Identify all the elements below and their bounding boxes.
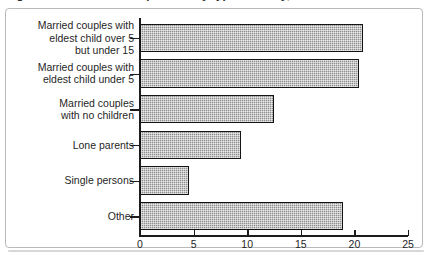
category-label: Married couples with no children xyxy=(6,97,134,122)
bar xyxy=(140,131,241,160)
x-axis-tick-label: 0 xyxy=(137,238,143,250)
x-axis-tick-label: 20 xyxy=(349,238,361,250)
y-axis-tick xyxy=(130,181,139,183)
bar xyxy=(140,24,363,53)
bar xyxy=(140,166,189,195)
y-axis-tick xyxy=(130,109,139,111)
category-label: Lone parents xyxy=(6,139,134,152)
frame-drop-shadow xyxy=(8,250,424,252)
bar-chart-plot-area: Married couples with eldest child over 5… xyxy=(6,9,424,249)
bar xyxy=(140,59,359,88)
x-axis-tick-label: 25 xyxy=(402,238,414,250)
x-axis-tick-label: 10 xyxy=(241,238,253,250)
x-axis-tick xyxy=(301,230,302,236)
category-label: Other xyxy=(6,210,134,223)
x-axis-line xyxy=(139,235,408,237)
category-label: Married couples with eldest child over 5… xyxy=(6,19,134,57)
chart-frame: Married couples with eldest child over 5… xyxy=(5,8,423,248)
y-axis-tick xyxy=(130,145,139,147)
x-axis-tick xyxy=(140,230,141,236)
y-axis-tick xyxy=(130,74,139,76)
x-axis-tick xyxy=(194,230,195,236)
x-axis-tick xyxy=(354,230,355,236)
x-axis-tick-label: 5 xyxy=(191,238,197,250)
x-axis-tick-label: 15 xyxy=(295,238,307,250)
figure-title-text: Figure 3: Household composition by type … xyxy=(6,0,319,1)
x-axis-tick xyxy=(247,230,248,236)
bar xyxy=(140,202,343,231)
y-axis-tick xyxy=(130,216,139,218)
category-label: Single persons xyxy=(6,174,134,187)
figure-title-clipped: Figure 3: Household composition by type … xyxy=(0,0,429,7)
y-axis-tick xyxy=(130,38,139,40)
x-axis-tick xyxy=(408,230,409,236)
bar xyxy=(140,95,274,124)
category-label: Married couples with eldest child under … xyxy=(6,61,134,86)
